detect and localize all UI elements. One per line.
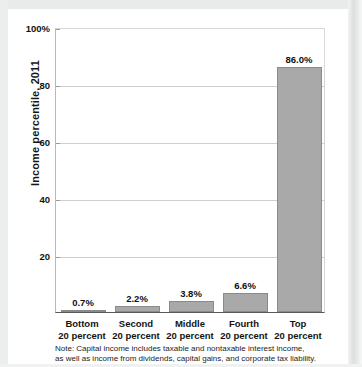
y-axis-tick-label: 20 [8, 251, 50, 262]
y-axis-tick-label: 60 [8, 137, 50, 148]
chart-note-line-2: as well as income from dividends, capita… [55, 354, 355, 364]
bar[interactable] [115, 306, 160, 312]
bar-value-label: 86.0% [271, 54, 328, 65]
x-axis-category-line-1: Middle [175, 318, 205, 329]
x-axis-category-line-1: Bottom [65, 318, 98, 329]
y-axis-title: Income percentile, 2011 [29, 38, 41, 208]
y-axis-tick-mark [56, 257, 60, 258]
y-axis-tick-label: 100% [8, 23, 50, 34]
chart-page: Income percentile, 2011 0.7%2.2%3.8%6.6%… [0, 0, 362, 367]
y-axis-tick-mark [56, 143, 60, 144]
page-frame-left [0, 0, 8, 367]
x-axis-category-line-1: Second [119, 318, 153, 329]
bar[interactable] [169, 301, 214, 312]
bar-value-label: 0.7% [55, 297, 112, 308]
x-axis-category-line-2: 20 percent [267, 330, 330, 342]
y-axis-tick-label: 80 [8, 80, 50, 91]
page-frame-right [348, 0, 362, 367]
bar-value-label: 2.2% [109, 293, 166, 304]
bar[interactable] [277, 67, 322, 312]
y-axis-tick-mark [56, 86, 60, 87]
bar[interactable] [223, 293, 268, 312]
x-axis-category-line-1: Top [290, 318, 307, 329]
y-axis-tick-mark [56, 29, 60, 30]
x-axis-category-label: Top20 percent [267, 318, 330, 341]
chart-note: Note: Capital income includes taxable an… [55, 344, 355, 363]
plot-area: 0.7%2.2%3.8%6.6%86.0% [55, 28, 325, 313]
y-axis-tick-label: 40 [8, 194, 50, 205]
bar[interactable] [61, 310, 106, 312]
chart-sheet: Income percentile, 2011 0.7%2.2%3.8%6.6%… [8, 9, 348, 364]
y-axis-tick-mark [56, 200, 60, 201]
bar-value-label: 6.6% [217, 280, 274, 291]
page-frame-top [0, 0, 362, 9]
x-axis-category-line-1: Fourth [229, 318, 259, 329]
bar-value-label: 3.8% [163, 288, 220, 299]
chart-note-line-1: Note: Capital income includes taxable an… [55, 344, 355, 354]
